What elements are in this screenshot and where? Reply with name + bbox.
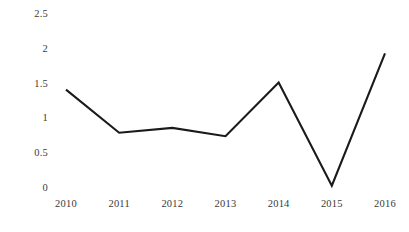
x-tick-label: 2011 [108,198,129,209]
y-tick-label: 2.5 [0,8,48,19]
y-tick-label: 1 [0,112,48,123]
x-tick-label: 2013 [215,198,237,209]
line-chart: 00.511.522.5 201020112012201320142015201… [0,0,409,232]
y-tick-label: 1.5 [0,77,48,88]
x-tick-label: 2016 [374,198,396,209]
y-tick-label: 0 [0,182,48,193]
y-tick-label: 0.5 [0,147,48,158]
x-tick-label: 2015 [321,198,343,209]
x-tick-label: 2010 [55,198,77,209]
x-tick-label: 2012 [161,198,183,209]
x-tick-label: 2014 [268,198,290,209]
y-tick-label: 2 [0,42,48,53]
